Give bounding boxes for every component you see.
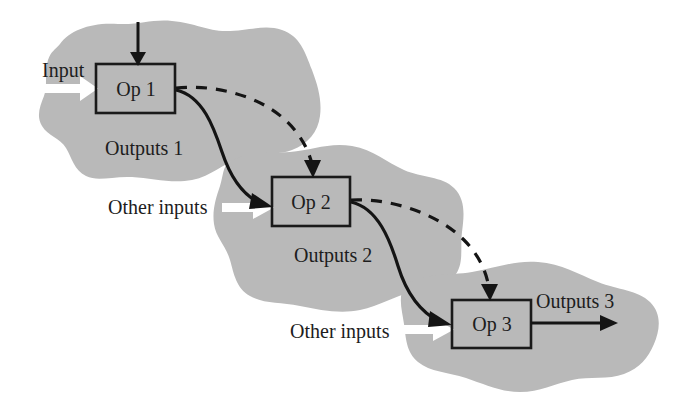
- outputs-1-label: Outputs 1: [105, 137, 183, 160]
- input-label: Input: [42, 59, 85, 82]
- other-inputs-1-label: Other inputs: [108, 196, 208, 219]
- other-inputs-2-label: Other inputs: [290, 320, 390, 343]
- outputs-3-label: Outputs 3: [536, 290, 614, 313]
- op2-label: Op 2: [291, 191, 330, 214]
- outputs-2-label: Outputs 2: [294, 244, 372, 267]
- op3-label: Op 3: [472, 313, 511, 336]
- process-flow-diagram: Op 1 Op 2 Op 3 Input Outputs 1 Other inp…: [0, 0, 689, 404]
- op1-label: Op 1: [116, 78, 155, 101]
- diagram-canvas: Op 1 Op 2 Op 3 Input Outputs 1 Other inp…: [0, 0, 689, 404]
